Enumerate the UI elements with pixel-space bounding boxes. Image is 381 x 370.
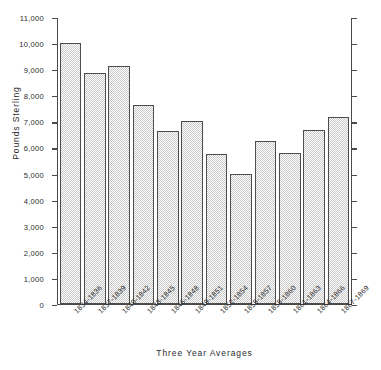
- y-axis-tick: 0: [52, 305, 57, 306]
- y-axis-tick-label: 9,000: [24, 66, 44, 75]
- y-axis-tick-label: 11,000: [20, 14, 44, 23]
- y-axis-tick-mirror: [352, 227, 357, 228]
- bar: [255, 141, 277, 303]
- bar: [108, 66, 130, 304]
- y-axis-tick-mirror: [352, 175, 357, 176]
- y-axis-tick: 1,000: [52, 279, 57, 280]
- y-axis-tick: 8,000: [52, 96, 57, 97]
- bar: [60, 43, 82, 304]
- y-axis-title: Pounds Sterling: [11, 63, 21, 183]
- y-axis-tick-label: 0: [40, 301, 44, 310]
- y-axis-tick-mirror: [352, 122, 357, 123]
- y-axis-tick-label: 6,000: [24, 144, 44, 153]
- y-axis-tick-label: 5,000: [24, 170, 44, 179]
- bars-layer: [58, 18, 350, 304]
- y-axis-tick-label: 4,000: [24, 196, 44, 205]
- y-axis-tick-label: 7,000: [24, 118, 44, 127]
- y-axis-tick-mirror: [352, 96, 357, 97]
- y-axis-tick: 7,000: [52, 122, 57, 123]
- y-axis-tick-mirror: [352, 253, 357, 254]
- y-axis-tick: 5,000: [52, 175, 57, 176]
- y-axis-tick-mirror: [352, 70, 357, 71]
- bar: [157, 131, 179, 304]
- y-axis-tick-label: 3,000: [24, 222, 44, 231]
- y-axis-tick: 3,000: [52, 227, 57, 228]
- bar-chart-figure: Pounds Sterling 01,0002,0003,0004,0005,0…: [0, 0, 381, 370]
- y-axis-tick-mirror: [352, 201, 357, 202]
- bar: [84, 73, 106, 304]
- y-axis-tick-label: 8,000: [24, 92, 44, 101]
- y-axis-tick-mirror: [352, 279, 357, 280]
- y-axis-tick: 4,000: [52, 201, 57, 202]
- bar: [181, 121, 203, 304]
- bar: [133, 105, 155, 304]
- bar: [328, 117, 350, 304]
- y-axis-tick-mirror: [352, 148, 357, 149]
- y-axis-tick: 6,000: [52, 148, 57, 149]
- y-axis-tick-mirror: [352, 44, 357, 45]
- y-axis-tick-label: 2,000: [24, 248, 44, 257]
- y-axis-right-spine: [351, 18, 352, 305]
- x-axis-title: Three Year Averages: [57, 348, 352, 358]
- y-axis-tick-label: 1,000: [24, 274, 44, 283]
- bar: [303, 130, 325, 304]
- bar: [279, 153, 301, 304]
- y-axis-tick: 10,000: [52, 44, 57, 45]
- y-axis-tick-label: 10,000: [19, 40, 44, 49]
- y-axis-tick: 11,000: [52, 18, 57, 19]
- plot-area: 01,0002,0003,0004,0005,0006,0007,0008,00…: [57, 18, 352, 305]
- y-axis-tick-mirror: [352, 18, 357, 19]
- bar: [206, 154, 228, 303]
- y-axis-tick: 2,000: [52, 253, 57, 254]
- y-axis-tick: 9,000: [52, 70, 57, 71]
